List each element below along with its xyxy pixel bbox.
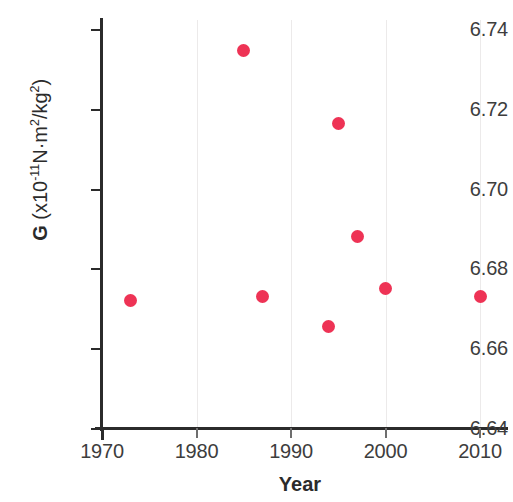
data-point — [124, 294, 137, 307]
x-axis-tick — [196, 428, 198, 438]
y-axis-label-exponent: -11 — [28, 164, 42, 181]
y-axis-tick — [91, 109, 102, 111]
y-axis-label-close: ) — [29, 79, 51, 86]
y-axis-spine — [100, 18, 103, 431]
y-axis-tick-label: 6.72 — [430, 99, 508, 119]
gridline — [386, 20, 387, 428]
x-axis-tick-label: 1980 — [152, 441, 242, 461]
plot-area — [102, 20, 508, 428]
data-point — [351, 230, 364, 243]
x-axis-tick-label: 2000 — [341, 441, 431, 461]
y-axis-label-units: N·m — [29, 126, 51, 164]
y-axis-label: G (x10-11N·m2/kg2) — [28, 45, 52, 275]
y-axis-tick-label: 6.74 — [430, 19, 508, 39]
y-axis-label-symbol: G — [29, 225, 51, 241]
x-axis-tick — [101, 428, 104, 440]
x-axis-tick-label: 1970 — [57, 441, 147, 461]
gridline — [291, 20, 292, 428]
x-axis-tick — [479, 428, 481, 438]
y-axis-tick — [91, 29, 102, 31]
x-axis-tick-label: 2010 — [435, 441, 513, 461]
data-point — [256, 290, 269, 303]
y-axis-tick-label: 6.68 — [430, 258, 508, 278]
x-axis-label: Year — [150, 473, 450, 496]
y-axis-tick-label: 6.70 — [430, 179, 508, 199]
y-axis-label-unit-exp-1: 2 — [28, 119, 42, 126]
x-axis-tick — [385, 428, 387, 438]
gridline — [197, 20, 198, 428]
data-point — [322, 320, 335, 333]
data-point — [379, 282, 392, 295]
x-axis-tick — [290, 428, 292, 438]
y-axis-label-open: (x10 — [29, 181, 51, 225]
y-axis-tick — [91, 268, 102, 270]
y-axis-tick-label: 6.66 — [430, 338, 508, 358]
data-point — [332, 117, 345, 130]
y-axis-label-slash: /kg — [29, 92, 51, 119]
y-axis-tick — [91, 189, 102, 191]
x-axis-tick-label: 1990 — [246, 441, 336, 461]
data-point — [474, 290, 487, 303]
y-axis-tick-label: 6.64 — [430, 418, 508, 438]
y-axis-label-unit-exp-2: 2 — [28, 86, 42, 93]
data-point — [237, 44, 250, 57]
gridline — [480, 20, 481, 428]
y-axis-tick — [91, 348, 102, 350]
